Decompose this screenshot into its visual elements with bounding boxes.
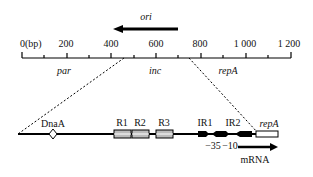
repeat-boxes — [114, 130, 173, 138]
repA-label: repA — [259, 118, 279, 129]
ruler — [22, 52, 291, 58]
region-par: par — [56, 65, 71, 76]
region-repA: repA — [218, 65, 238, 76]
mrna-arrow — [238, 143, 278, 151]
repA-gene-box — [256, 131, 278, 137]
tick-label-1200: 1 200 — [278, 38, 301, 49]
r1-label: R1 — [116, 117, 128, 128]
tick-label-1000: 1 000 — [234, 38, 257, 49]
dnaa-box-diamond — [49, 129, 57, 139]
inverted-repeat-arrows — [198, 131, 252, 137]
ruler-origin-label: 0(bp) — [20, 38, 42, 50]
region-inc: inc — [149, 65, 162, 76]
r3-label: R3 — [158, 117, 170, 128]
ori-arrow — [113, 25, 178, 33]
mrna-label: mRNA — [241, 154, 271, 165]
tick-label-800: 800 — [193, 38, 208, 49]
ori-label: ori — [140, 11, 152, 22]
promoter-minus10: −10 — [222, 140, 238, 151]
plasmid-map-diagram: ori 0(bp) 200 400 600 800 1 000 1 200 pa… — [0, 0, 313, 177]
dnaa-label: DnaA — [41, 118, 66, 129]
ir2-label: IR2 — [226, 117, 241, 128]
r2-label: R2 — [134, 117, 146, 128]
ir1-label: IR1 — [198, 117, 213, 128]
tick-label-400: 400 — [104, 38, 119, 49]
tick-label-600: 600 — [149, 38, 164, 49]
tick-label-200: 200 — [59, 38, 74, 49]
promoter-minus35: −35 — [205, 140, 221, 151]
